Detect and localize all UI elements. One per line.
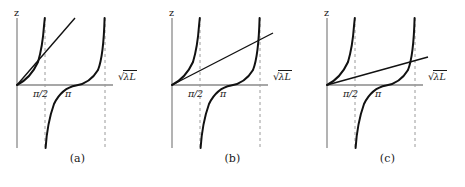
y-axis-label-b: z bbox=[169, 7, 174, 18]
y-axis-label-a: z bbox=[14, 7, 19, 18]
panel-c: z π/2 π √λL (c) bbox=[310, 0, 465, 187]
x-axis-label-b: √λL bbox=[273, 70, 292, 82]
straight-line-b bbox=[172, 33, 273, 85]
tick-label-half-pi-c: π/2 bbox=[343, 88, 358, 99]
tan-branch-1-b bbox=[172, 18, 200, 85]
tick-label-pi-a: π bbox=[65, 88, 71, 99]
panel-a: z π/2 π √λL (a) bbox=[0, 0, 155, 187]
tan-branch-1-c bbox=[327, 18, 355, 85]
x-axis-label-a: √λL bbox=[118, 70, 137, 82]
tick-label-pi-b: π bbox=[220, 88, 226, 99]
sqrt-radicand-a: λL bbox=[123, 70, 136, 82]
caption-c: (c) bbox=[310, 152, 465, 165]
figure-triptych: z π/2 π √λL (a) z π/2 π √λL (b) bbox=[0, 0, 465, 187]
tick-label-half-pi-a: π/2 bbox=[33, 88, 48, 99]
tan-branch-2-a bbox=[46, 18, 105, 148]
tan-branch-1-a bbox=[17, 18, 45, 85]
sqrt-radicand-c: λL bbox=[433, 70, 446, 82]
tan-branch-2-b bbox=[201, 18, 260, 148]
sqrt-radicand-b: λL bbox=[278, 70, 291, 82]
tick-label-half-pi-b: π/2 bbox=[188, 88, 203, 99]
y-axis-label-c: z bbox=[324, 7, 329, 18]
x-axis-label-c: √λL bbox=[428, 70, 447, 82]
tan-branch-2-c bbox=[356, 18, 415, 148]
panel-b: z π/2 π √λL (b) bbox=[155, 0, 310, 187]
tick-label-pi-c: π bbox=[375, 88, 381, 99]
straight-line-a bbox=[17, 18, 75, 85]
caption-b: (b) bbox=[155, 152, 310, 165]
caption-a: (a) bbox=[0, 152, 155, 165]
